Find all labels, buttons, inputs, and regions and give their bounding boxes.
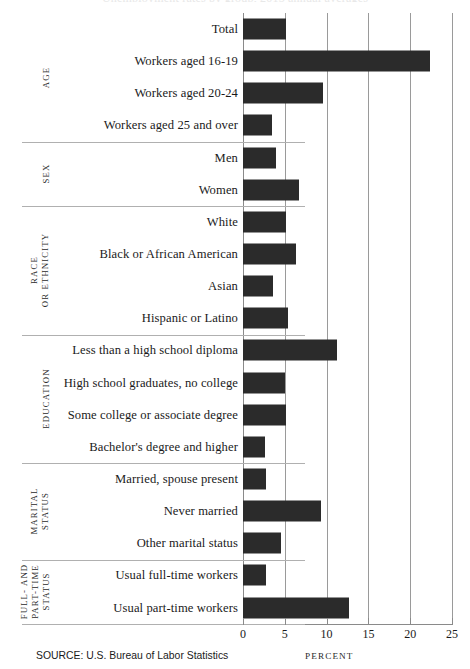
bar-row: High school graduates, no college	[0, 367, 470, 399]
x-axis-tick-label: 0	[240, 627, 246, 642]
group-separator	[22, 463, 305, 464]
bar	[243, 565, 266, 586]
bar-row-label: Workers aged 25 and over	[104, 118, 238, 133]
bar-row: Workers aged 16-19	[0, 45, 470, 77]
group-label-line: STATUS	[40, 560, 51, 624]
group-label: AGE	[41, 13, 52, 142]
group-label-line: STATUS	[41, 463, 52, 559]
bar-row-label: Men	[215, 150, 238, 165]
bar	[243, 533, 281, 554]
group-separator	[22, 206, 305, 207]
group-label-line: FULL- AND	[18, 560, 29, 624]
bar-row-label: High school graduates, no college	[64, 375, 238, 390]
x-axis-tick-label: 5	[282, 627, 288, 642]
bar-row: Asian	[0, 270, 470, 302]
bar-row: Hispanic or Latino	[0, 302, 470, 334]
bar-row-label: Workers aged 20-24	[134, 86, 238, 101]
bar-row-label: Bachelor's degree and higher	[89, 439, 238, 454]
bar-row-label: Never married	[164, 504, 238, 519]
bar	[243, 501, 321, 522]
bar-row: Women	[0, 174, 470, 206]
group-label-line: RACE	[30, 206, 41, 335]
bar	[243, 179, 299, 200]
bar-row-label: Asian	[208, 279, 238, 294]
bar	[243, 244, 296, 265]
x-axis-tick-label: 25	[446, 627, 458, 642]
bar	[243, 276, 273, 297]
bar	[243, 51, 430, 72]
bar-rows: TotalWorkers aged 16-19Workers aged 20-2…	[0, 13, 470, 624]
bar-row-label: White	[207, 214, 238, 229]
group-label-line: OR ETHNICITY	[41, 206, 52, 335]
bar	[243, 469, 266, 490]
bar-row-label: Usual part-time workers	[113, 600, 238, 615]
bar-row-label: Married, spouse present	[115, 472, 238, 487]
bar-row: Total	[0, 13, 470, 45]
bar-row: Bachelor's degree and higher	[0, 431, 470, 463]
chart-title: Unemployment rates by group, 2015 annual…	[0, 0, 470, 2]
x-axis-tick	[410, 618, 411, 625]
bar-row: Other marital status	[0, 527, 470, 559]
bar-row-label: Other marital status	[137, 536, 238, 551]
group-separator	[22, 142, 305, 143]
bar-row: White	[0, 206, 470, 238]
bar	[243, 372, 285, 393]
x-axis-tick	[243, 618, 244, 625]
x-axis-tick-label: 15	[362, 627, 374, 642]
bar	[243, 404, 286, 425]
x-axis-tick-label: 20	[404, 627, 416, 642]
bar-row: Some college or associate degree	[0, 399, 470, 431]
x-axis-tick	[368, 618, 369, 625]
source-note: SOURCE: U.S. Bureau of Labor Statistics	[36, 650, 228, 661]
x-axis-tick	[327, 618, 328, 625]
bar-row: Workers aged 20-24	[0, 77, 470, 109]
group-label: FULL- ANDPART-TIMESTATUS	[18, 560, 51, 624]
bar-row-label: Women	[199, 182, 238, 197]
group-separator	[22, 624, 305, 625]
bar-row: Never married	[0, 495, 470, 527]
bar-row-label: Black or African American	[99, 247, 238, 262]
group-label-line: MARITAL	[30, 463, 41, 559]
bar	[243, 19, 286, 40]
bar	[243, 308, 288, 329]
bar-row: Usual part-time workers	[0, 592, 470, 624]
group-label: SEX	[40, 142, 51, 206]
bar	[243, 147, 276, 168]
bar	[243, 597, 349, 618]
bar-row-label: Hispanic or Latino	[142, 311, 238, 326]
group-label: RACEOR ETHNICITY	[30, 206, 52, 335]
bar	[243, 83, 323, 104]
group-label: EDUCATION	[41, 335, 52, 464]
chart-page: Unemployment rates by group, 2015 annual…	[0, 0, 470, 669]
bar-row: Less than a high school diploma	[0, 334, 470, 366]
bar-row: Black or African American	[0, 238, 470, 270]
bar-row-label: Some college or associate degree	[68, 407, 238, 422]
bar-row-label: Total	[212, 22, 238, 37]
group-label-line: AGE	[41, 13, 52, 142]
group-label-line: SEX	[40, 142, 51, 206]
bar-row-label: Less than a high school diploma	[72, 343, 238, 358]
bar-row: Workers aged 25 and over	[0, 109, 470, 141]
bar-row: Usual full-time workers	[0, 559, 470, 591]
bar-row-label: Usual full-time workers	[115, 568, 238, 583]
group-label: MARITALSTATUS	[30, 463, 52, 559]
x-axis-label: PERCENT	[305, 651, 354, 661]
bar-row: Married, spouse present	[0, 463, 470, 495]
bar	[243, 211, 286, 232]
bar	[243, 115, 272, 136]
bar-row-label: Workers aged 16-19	[134, 54, 238, 69]
x-axis-tick	[285, 618, 286, 625]
group-label-line: EDUCATION	[41, 335, 52, 464]
x-axis-tick	[452, 618, 453, 625]
bar	[243, 340, 337, 361]
group-separator	[22, 560, 305, 561]
bar-row: Men	[0, 142, 470, 174]
x-axis-tick-label: 10	[321, 627, 333, 642]
bar	[243, 436, 265, 457]
group-label-line: PART-TIME	[29, 560, 40, 624]
group-separator	[22, 335, 305, 336]
